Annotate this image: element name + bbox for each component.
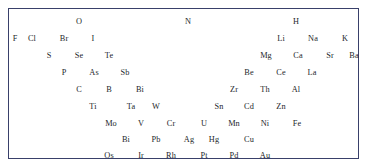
element-symbol: Br — [60, 35, 69, 43]
element-symbol: B — [106, 86, 112, 94]
element-symbol: Ir — [138, 152, 144, 160]
element-symbol: H — [293, 18, 299, 26]
element-symbol: Ca — [293, 52, 302, 60]
element-symbol: Zn — [276, 103, 285, 111]
element-symbol: Li — [277, 35, 285, 43]
element-symbol: Bi — [136, 86, 144, 94]
element-symbol: Ce — [276, 69, 285, 77]
element-symbol: Ta — [127, 103, 135, 111]
element-symbol: La — [308, 69, 317, 77]
element-symbol: Ba — [349, 52, 358, 60]
element-symbol: C — [76, 86, 82, 94]
element-arrangement-panel: ONHFClBrILiNaKSSeTeMgCaSrBaPAsSbBeCeLaCB… — [8, 8, 359, 159]
element-symbol: Sn — [215, 103, 224, 111]
element-symbol: Mo — [105, 120, 117, 128]
element-symbol: Sr — [326, 52, 334, 60]
element-symbol: Cl — [28, 35, 36, 43]
element-symbol: Na — [308, 35, 318, 43]
element-symbol: Te — [105, 52, 113, 60]
element-symbol: Zr — [230, 86, 238, 94]
element-symbol: P — [62, 69, 67, 77]
element-symbol: As — [89, 69, 98, 77]
element-symbol: K — [342, 35, 348, 43]
element-symbol: W — [152, 103, 160, 111]
element-symbol: Pb — [152, 136, 161, 144]
element-symbol: Ag — [184, 136, 194, 144]
element-symbol: Au — [260, 152, 270, 160]
element-symbol: Hg — [209, 136, 219, 144]
element-symbol: F — [13, 35, 18, 43]
element-symbol: Os — [104, 152, 113, 160]
element-symbol: Mn — [228, 120, 240, 128]
element-symbol: Cr — [167, 120, 176, 128]
element-symbol: Sb — [121, 69, 130, 77]
element-symbol: Bi — [122, 136, 130, 144]
element-symbol: Cu — [244, 136, 254, 144]
element-symbol: Se — [75, 52, 84, 60]
element-symbol: O — [76, 18, 82, 26]
figure-root: ONHFClBrILiNaKSSeTeMgCaSrBaPAsSbBeCeLaCB… — [0, 0, 369, 168]
element-symbol: U — [201, 120, 207, 128]
element-symbol: Al — [292, 86, 301, 94]
element-symbol: Cd — [244, 103, 254, 111]
element-symbol: S — [47, 52, 52, 60]
element-symbol: Th — [260, 86, 269, 94]
element-symbol: I — [92, 35, 95, 43]
element-symbol: Be — [244, 69, 253, 77]
element-symbol: Fe — [293, 120, 302, 128]
element-symbol: Rh — [166, 152, 176, 160]
element-symbol: Pt — [200, 152, 207, 160]
element-symbol: N — [185, 18, 191, 26]
element-symbol: Mg — [260, 52, 272, 60]
element-symbol: V — [138, 120, 144, 128]
element-symbol: Ni — [261, 120, 270, 128]
element-symbol: Pd — [230, 152, 239, 160]
element-symbol: Ti — [89, 103, 96, 111]
